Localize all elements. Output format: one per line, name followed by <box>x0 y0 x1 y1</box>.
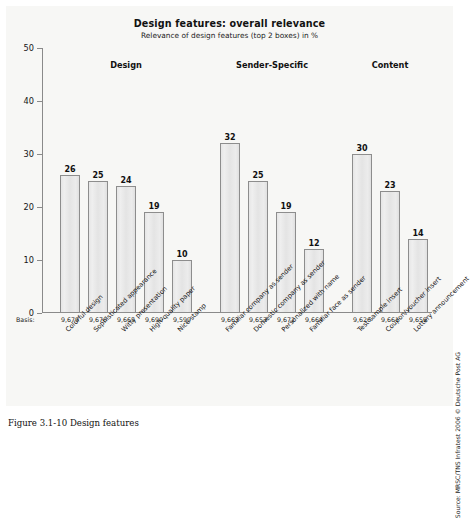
y-tick-label: 20 <box>24 202 34 212</box>
group-heading: Sender-Specific <box>236 60 308 70</box>
source-note: Source: MRSC/TNS Infratest 2006 © Deutsc… <box>454 352 461 518</box>
group-heading: Design <box>110 60 142 70</box>
bar-value-label: 32 <box>224 133 235 142</box>
figure-caption-text: Design features <box>70 418 139 428</box>
bar-value-label: 14 <box>412 229 423 238</box>
y-axis-line <box>42 48 43 313</box>
bar-value-label: 19 <box>148 202 159 211</box>
bar-value-label: 25 <box>92 171 103 180</box>
y-tick <box>37 154 42 155</box>
y-tick-label: 40 <box>24 96 34 106</box>
bar-value-label: 24 <box>120 176 131 185</box>
bar-value-label: 23 <box>384 181 395 190</box>
chart-title: Design features: overall relevance <box>0 18 459 29</box>
chart-subtitle: Relevance of design features (top 2 boxe… <box>0 31 459 40</box>
y-tick <box>37 101 42 102</box>
bar: 32 <box>220 143 240 313</box>
bar-value-label: 12 <box>308 239 319 248</box>
basis-label: Basis: <box>16 316 35 323</box>
group-heading: Content <box>372 60 409 70</box>
y-tick <box>37 260 42 261</box>
bar-value-label: 30 <box>356 144 367 153</box>
bar-value-label: 25 <box>252 171 263 180</box>
y-tick-label: 10 <box>24 255 34 265</box>
bar-value-label: 10 <box>176 250 187 259</box>
bar-value-label: 19 <box>280 202 291 211</box>
figure-number: Figure 3.1-10 <box>8 418 67 428</box>
y-tick <box>37 207 42 208</box>
y-tick-label: 30 <box>24 149 34 159</box>
y-tick <box>37 313 42 314</box>
bar: 26 <box>60 175 80 313</box>
figure-caption: Figure 3.1-10 Design features <box>8 418 139 428</box>
bar-value-label: 26 <box>64 165 75 174</box>
y-tick <box>37 48 42 49</box>
plot-area: 01020304050 262524191032251912302314 <box>42 48 432 313</box>
y-tick-label: 50 <box>24 43 34 53</box>
